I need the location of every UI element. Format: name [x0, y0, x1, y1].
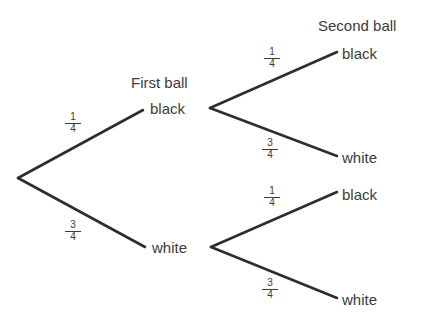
fraction-numerator: 3: [262, 278, 278, 290]
probability-first-white-to-second-white: 3 4: [262, 278, 278, 300]
node-label-second-black-from-white: black: [342, 187, 377, 202]
node-label-second-black-from-black: black: [342, 46, 377, 61]
node-label-first-black: black: [150, 101, 185, 116]
fraction-numerator: 1: [65, 112, 81, 124]
fraction-numerator: 3: [65, 220, 81, 232]
branch-root-to-first-white: [18, 178, 145, 247]
probability-root-to-first-black: 1 4: [65, 112, 81, 134]
fraction-denominator: 4: [264, 59, 280, 70]
probability-first-white-to-second-black: 1 4: [264, 186, 280, 208]
probability-tree-diagram: First ball Second ball black white black…: [0, 0, 431, 323]
fraction-denominator: 4: [65, 232, 81, 243]
fraction-denominator: 4: [262, 150, 278, 161]
fraction-denominator: 4: [264, 198, 280, 209]
node-label-second-white-from-white: white: [342, 292, 377, 307]
node-label-first-white: white: [152, 240, 187, 255]
fraction-denominator: 4: [262, 290, 278, 301]
fraction-denominator: 4: [65, 124, 81, 135]
node-label-second-white-from-black: white: [342, 150, 377, 165]
probability-root-to-first-white: 3 4: [65, 220, 81, 242]
fraction-numerator: 3: [262, 138, 278, 150]
fraction-numerator: 1: [264, 47, 280, 59]
probability-first-black-to-second-white: 3 4: [262, 138, 278, 160]
probability-first-black-to-second-black: 1 4: [264, 47, 280, 69]
second-ball-header: Second ball: [318, 18, 396, 33]
first-ball-header: First ball: [131, 75, 188, 90]
fraction-numerator: 1: [264, 186, 280, 198]
